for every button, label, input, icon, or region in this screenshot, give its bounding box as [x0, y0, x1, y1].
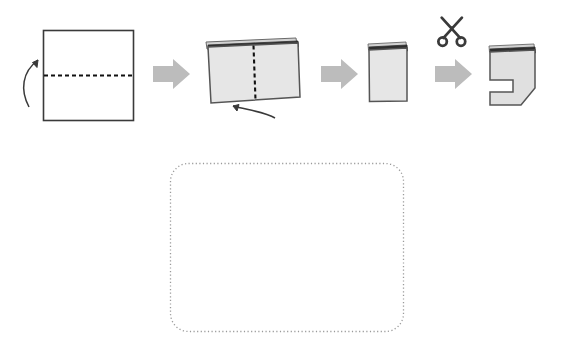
scissors-icon [438, 18, 465, 46]
right-arrow-icon [153, 59, 190, 89]
scissors-handle-left [438, 37, 446, 45]
step-1-flat-square-sheet [24, 31, 134, 121]
fold-arrow-head-2 [233, 105, 239, 112]
step-arrow-3 [435, 59, 472, 89]
fold-arrow-head-1 [33, 60, 39, 68]
right-arrow-icon [435, 59, 472, 89]
fold-arrow-curve-1 [24, 60, 38, 107]
answer-box-dotted-border[interactable] [171, 164, 404, 332]
scissors-pivot [450, 26, 453, 29]
step-arrow-2 [321, 59, 358, 89]
step-arrow-1 [153, 59, 190, 89]
puzzle-canvas: Unfolded square sheet of paper with hori… [0, 0, 564, 355]
folded-paper-body-3 [369, 48, 407, 102]
fold-arrow-curve-2 [233, 106, 275, 118]
folded-paper-body-2 [208, 43, 300, 103]
step-2-half-folded-rectangle [206, 38, 300, 118]
scissors-handle-right [457, 37, 465, 45]
step-4-cut-folded-shape [489, 44, 536, 105]
cut-paper-body-4 [490, 50, 535, 105]
right-arrow-icon [321, 59, 358, 89]
paper-folding-diagram [0, 0, 564, 355]
step-3-quarter-folded-square [368, 42, 408, 102]
answer-placeholder-box[interactable] [171, 164, 404, 332]
